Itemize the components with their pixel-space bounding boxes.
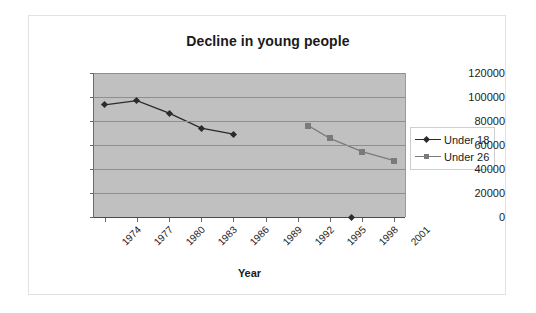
x-axis-baseline <box>94 217 405 218</box>
y-axis-tick-mark <box>90 217 94 218</box>
x-axis-tick-mark <box>394 218 395 222</box>
gridline <box>94 121 405 122</box>
x-axis-tick-mark <box>298 218 299 222</box>
x-axis-tick-label: 1989 <box>280 224 304 248</box>
data-point-marker <box>391 158 397 164</box>
x-axis-title: Year <box>94 267 405 279</box>
data-point-marker <box>359 149 365 155</box>
y-axis-tick-label: 0 <box>443 211 505 223</box>
gridline <box>94 169 405 170</box>
y-axis-tick-mark <box>90 121 94 122</box>
plot-area <box>94 73 406 217</box>
x-axis-tick-mark <box>266 218 267 222</box>
y-axis-tick-label: 60000 <box>443 139 505 151</box>
x-axis-tick-label: 1977 <box>151 224 175 248</box>
y-axis-tick-mark <box>90 145 94 146</box>
gridline <box>94 193 405 194</box>
x-axis-tick-mark <box>330 218 331 222</box>
y-axis-tick-mark <box>90 73 94 74</box>
x-axis-tick-mark <box>137 218 138 222</box>
y-axis-tick-label: 120000 <box>443 67 505 79</box>
y-axis-tick-label: 20000 <box>443 187 505 199</box>
square-marker-icon <box>415 152 441 162</box>
y-axis-tick-label: 40000 <box>443 163 505 175</box>
x-axis-tick-mark <box>362 218 363 222</box>
data-point-marker <box>305 123 311 129</box>
x-axis-tick-label: 1992 <box>312 224 336 248</box>
x-axis-tick-label: 1980 <box>184 224 208 248</box>
x-axis-tick-label: 2001 <box>409 224 433 248</box>
y-axis-labels <box>29 16 89 294</box>
data-point-marker <box>327 135 333 141</box>
x-axis-tick-mark <box>105 218 106 222</box>
gridline <box>94 145 405 146</box>
x-axis-tick-mark <box>169 218 170 222</box>
y-axis-tick-mark <box>90 169 94 170</box>
y-axis-tick-mark <box>90 97 94 98</box>
gridline <box>94 73 405 74</box>
x-axis-tick-mark <box>201 218 202 222</box>
chart-title: Decline in young people <box>29 33 507 49</box>
legend-label: Under 26 <box>444 151 489 163</box>
y-axis-tick-label: 80000 <box>443 115 505 127</box>
chart-container: Decline in young people 1974197719801983… <box>28 15 506 295</box>
diamond-marker-icon <box>415 135 441 145</box>
gridline <box>94 97 405 98</box>
series-line-2 <box>308 126 394 161</box>
y-axis-tick-mark <box>90 193 94 194</box>
x-axis-tick-label: 1998 <box>377 224 401 248</box>
x-axis-tick-label: 1986 <box>248 224 272 248</box>
x-axis-tick-mark <box>233 218 234 222</box>
x-axis-tick-label: 1995 <box>344 224 368 248</box>
x-axis-tick-label: 1983 <box>216 224 240 248</box>
y-axis-tick-label: 100000 <box>443 91 505 103</box>
x-axis-tick-label: 1974 <box>119 224 143 248</box>
